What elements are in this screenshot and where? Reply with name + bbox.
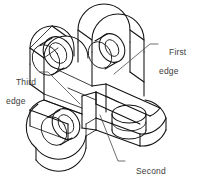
back-upper-plate xyxy=(78,4,144,96)
callout-second-edge: Second edge xyxy=(126,157,166,185)
leader-third-edge xyxy=(40,72,80,104)
callout-second-edge-line1: Second xyxy=(136,166,166,176)
technical-drawing-canvas: First edge Third edge Second edge xyxy=(0,0,198,185)
callout-first-edge-line1: First xyxy=(169,47,186,57)
front-lower-slab xyxy=(86,118,140,146)
callout-third-edge-line2: edge xyxy=(6,97,36,107)
callout-third-edge: Third edge xyxy=(6,68,36,125)
callout-third-edge-line1: Third xyxy=(16,77,36,87)
callout-first-edge-line2: edge xyxy=(159,67,186,77)
lower-left-cylinder-boss xyxy=(36,104,85,150)
callout-first-edge: First edge xyxy=(159,38,186,95)
leader-first-edge xyxy=(114,44,158,74)
